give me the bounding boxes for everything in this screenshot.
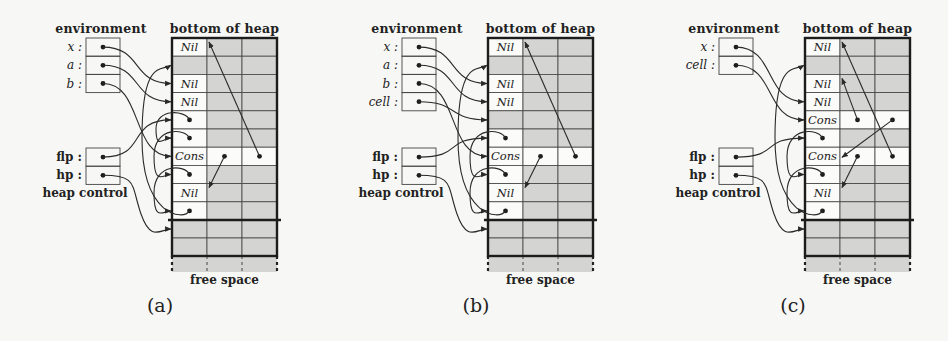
heap-cell [207,111,242,129]
heap-cell [242,165,277,183]
heap-cell [875,56,910,74]
heap-cell [242,184,277,202]
panel-c: environmentbottom of heapNilNilNilConsCo… [675,21,914,316]
heap-cell [488,56,523,74]
hp-label: hp : [56,168,82,182]
heap-cell [207,184,242,202]
environment-box: x :cell : [686,38,753,74]
diagram-canvas: environmentbottom of heapNilNilNilConsNi… [0,0,948,341]
free-space-label: free space [190,273,259,287]
pointer-arrow [419,65,487,101]
heap-control-label: heap control [358,186,444,200]
environment-heading: environment [55,21,146,36]
flp-label: flp : [56,150,82,164]
heap-cell [558,220,593,238]
heap-cell [875,202,910,220]
heap-cell [558,38,593,56]
pointer-arrow [103,65,171,101]
nil-cell-label: Nil [813,40,832,54]
heap-cell [840,56,875,74]
heap-cell [840,38,875,56]
environment-heading: environment [371,21,462,36]
heap-cell [207,202,242,220]
heap-cell [805,238,840,256]
heap-cell [207,38,242,56]
heap-cell [523,111,558,129]
heap-cell [207,238,242,256]
heap-cell [875,74,910,92]
pointer-arrow [103,175,171,232]
heap-control-box: flp :hp : [689,148,753,184]
env-var-label: x : [383,40,398,54]
heap-cell [558,238,593,256]
bottom-of-heap-heading: bottom of heap [486,21,595,36]
env-var-label: x : [67,40,82,54]
env-var-label: b : [66,77,82,91]
nil-cell-label: Nil [496,186,515,200]
heap-cell [207,220,242,238]
heap-cell [558,165,593,183]
heap-cell [558,202,593,220]
heap-cell [840,129,875,147]
nil-cell-label: Nil [813,77,832,91]
heap-cell [875,93,910,111]
pointer-arrow [419,175,487,232]
nil-cell-label: Nil [180,186,199,200]
heap-cell [840,220,875,238]
pointer-dot [890,154,895,159]
hp-label: hp : [689,168,715,182]
env-var-label: cell : [686,58,715,72]
heap-cell [558,56,593,74]
pointer-arrow [103,47,171,83]
free-space-area [172,256,277,272]
env-var-label: b : [382,77,398,91]
free-space-area [805,256,910,272]
heap-cell [875,220,910,238]
pointer-dot [573,154,578,159]
flp-label: flp : [689,150,715,164]
heap-diagram-figure: environmentbottom of heapNilNilNilConsNi… [0,0,948,341]
heap-cell [875,165,910,183]
heap-cell [558,74,593,92]
heap-cell [523,220,558,238]
bottom-of-heap-heading: bottom of heap [170,21,279,36]
heap-cell [242,129,277,147]
heap-cell [207,56,242,74]
heap-cell [488,220,523,238]
environment-heading: environment [688,21,779,36]
heap-cell [242,238,277,256]
hp-label: hp : [372,168,398,182]
heap-cell [523,238,558,256]
heap-cell [558,129,593,147]
pointer-arrow [419,47,487,83]
cons-cell-label: Cons [808,149,837,163]
panel-a: environmentbottom of heapNilNilNilConsNi… [42,21,281,316]
pointer-arrow [736,175,804,232]
cons-cell-label: Cons [491,149,520,163]
nil-cell-label: Nil [180,77,199,91]
heap-cell [840,184,875,202]
nil-cell-label: Nil [813,95,832,109]
heap-cell [242,111,277,129]
heap-cell [242,93,277,111]
cons-cell-label: Cons [808,113,837,127]
env-var-label: a : [67,58,82,72]
pointer-dot [257,154,262,159]
heap-cell [172,238,207,256]
free-space-label: free space [506,273,575,287]
flp-label: flp : [372,150,398,164]
heap-control-box: flp :hp : [56,148,120,184]
heap-control-box: flp :hp : [372,148,436,184]
panel-caption: (b) [463,294,490,316]
heap-cell [172,56,207,74]
heap-cell [523,93,558,111]
panel-caption: (a) [147,294,173,316]
heap-cell [488,238,523,256]
pointer-arrow [103,120,171,157]
heap-cell [242,74,277,92]
heap-cell [875,238,910,256]
heap-cell [207,129,242,147]
heap-cell [558,93,593,111]
heap-cell [558,184,593,202]
nil-cell-label: Nil [496,40,515,54]
